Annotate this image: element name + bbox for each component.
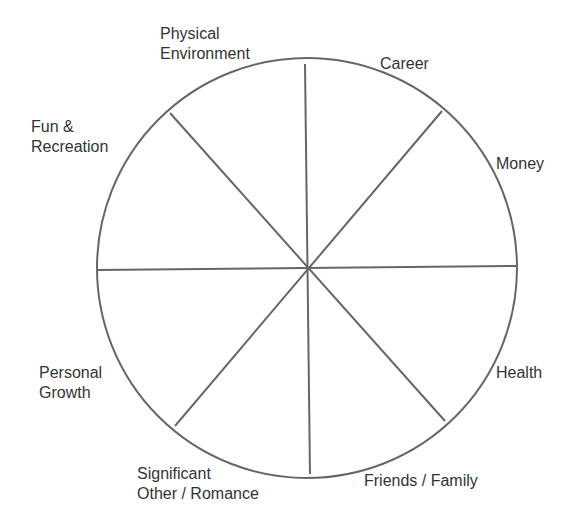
- label-health: Health: [496, 363, 542, 383]
- label-friends-family: Friends / Family: [364, 471, 478, 491]
- label-line: Friends / Family: [364, 471, 478, 491]
- wheel-spokes: [97, 64, 517, 474]
- label-physical-environment: Physical Environment: [160, 24, 250, 64]
- wheel-diagram: [0, 0, 585, 532]
- label-line: Environment: [160, 44, 250, 64]
- label-personal-growth: Personal Growth: [39, 363, 102, 403]
- label-line: Other / Romance: [137, 484, 259, 504]
- label-line: Physical: [160, 24, 250, 44]
- label-line: Money: [496, 154, 544, 174]
- label-fun-recreation: Fun & Recreation: [31, 117, 108, 157]
- label-significant-other: Significant Other / Romance: [137, 464, 259, 504]
- label-line: Recreation: [31, 137, 108, 157]
- label-line: Fun &: [31, 117, 108, 137]
- label-line: Personal: [39, 363, 102, 383]
- label-line: Growth: [39, 383, 102, 403]
- label-line: Career: [380, 54, 429, 74]
- label-career: Career: [380, 54, 429, 74]
- label-money: Money: [496, 154, 544, 174]
- label-line: Significant: [137, 464, 259, 484]
- label-line: Health: [496, 363, 542, 383]
